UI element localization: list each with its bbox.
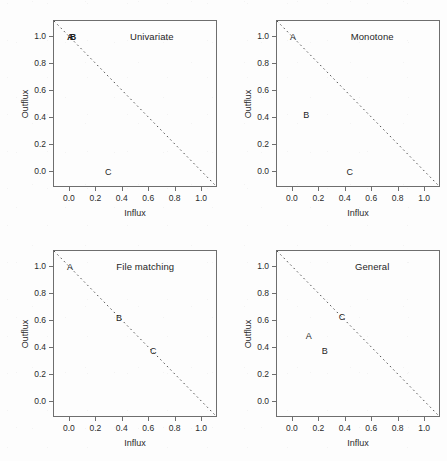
y-tick-label: 0.2 [257, 139, 269, 148]
x-tick [345, 417, 346, 421]
y-tick [272, 266, 276, 267]
y-tick [49, 374, 53, 375]
panel-title: Monotone [351, 31, 394, 42]
y-tick-label: 1.0 [257, 32, 269, 41]
x-axis-label: Influx [347, 438, 369, 448]
influx-outflux-figure: ABCUnivariate0.00.20.40.60.81.00.00.20.4… [0, 0, 447, 461]
x-tick-label: 1.0 [195, 194, 207, 203]
x-tick-label: 0.4 [339, 194, 351, 203]
x-tick-label: 0.0 [63, 194, 75, 203]
plot-area: ABCMonotone [277, 21, 439, 186]
y-tick [272, 36, 276, 37]
x-tick-label: 0.6 [142, 194, 154, 203]
y-tick-label: 0.0 [34, 396, 46, 405]
x-tick-label: 0.2 [312, 194, 324, 203]
y-tick [49, 63, 53, 64]
x-tick [69, 187, 70, 191]
y-tick-label: 0.8 [257, 59, 269, 68]
y-tick-label: 0.0 [34, 166, 46, 175]
x-tick [398, 187, 399, 191]
panel-title: General [355, 261, 390, 272]
x-tick-label: 0.6 [142, 424, 154, 433]
y-tick [272, 63, 276, 64]
y-tick-label: 0.4 [34, 342, 46, 351]
x-tick-label: 0.0 [286, 424, 298, 433]
y-tick-label: 0.2 [34, 369, 46, 378]
reference-line [277, 251, 439, 416]
y-tick-label: 0.4 [257, 112, 269, 121]
y-tick [49, 36, 53, 37]
panel-title: File matching [116, 261, 174, 272]
x-tick-label: 0.8 [392, 194, 404, 203]
y-tick [49, 144, 53, 145]
x-tick-label: 0.8 [392, 424, 404, 433]
y-tick-label: 0.8 [257, 289, 269, 298]
y-axis-label: Outflux [243, 89, 253, 118]
plot-area: ABCFile matching [54, 251, 216, 416]
x-tick [371, 187, 372, 191]
y-tick [272, 90, 276, 91]
y-tick-label: 1.0 [34, 32, 46, 41]
x-tick [345, 187, 346, 191]
panel-univariate: ABCUnivariate0.00.20.40.60.81.00.00.20.4… [0, 0, 223, 230]
x-tick-label: 0.2 [89, 194, 101, 203]
y-tick-label: 0.2 [34, 139, 46, 148]
plot-area: ABCGeneral [277, 251, 439, 416]
x-tick [95, 187, 96, 191]
plot-frame: ABCUnivariate [53, 20, 217, 187]
data-point-label-a: A [290, 33, 296, 42]
data-point-label-b: B [322, 346, 328, 355]
x-tick-label: 0.6 [365, 424, 377, 433]
y-axis-label: Outflux [243, 319, 253, 348]
y-tick-label: 0.2 [257, 369, 269, 378]
y-tick [49, 171, 53, 172]
x-tick [424, 417, 425, 421]
x-tick-label: 1.0 [418, 424, 430, 433]
x-tick [122, 417, 123, 421]
x-tick-label: 0.8 [169, 424, 181, 433]
x-tick [175, 187, 176, 191]
y-tick [272, 401, 276, 402]
x-tick-label: 0.4 [339, 424, 351, 433]
x-tick-label: 0.8 [169, 194, 181, 203]
y-tick [272, 117, 276, 118]
x-tick [201, 417, 202, 421]
x-tick-label: 0.0 [286, 194, 298, 203]
x-tick [175, 417, 176, 421]
x-tick-label: 0.2 [312, 424, 324, 433]
y-tick [49, 293, 53, 294]
panel-general: ABCGeneral0.00.20.40.60.81.00.00.20.40.6… [223, 230, 446, 460]
data-point-label-ab: AB [67, 33, 73, 42]
x-tick [69, 417, 70, 421]
x-tick [148, 187, 149, 191]
y-tick [49, 90, 53, 91]
reference-line [54, 21, 216, 186]
data-point-label-c: C [105, 167, 111, 176]
data-point-label-c: C [347, 167, 353, 176]
x-tick [318, 417, 319, 421]
y-tick-label: 0.8 [34, 289, 46, 298]
y-axis-label: Outflux [20, 319, 30, 348]
data-point-label-a: A [306, 331, 312, 340]
y-tick-label: 0.6 [34, 316, 46, 325]
x-tick-label: 0.6 [365, 194, 377, 203]
y-tick [49, 117, 53, 118]
panel-monotone: ABCMonotone0.00.20.40.60.81.00.00.20.40.… [223, 0, 446, 230]
x-tick [371, 417, 372, 421]
y-tick-label: 0.6 [257, 86, 269, 95]
data-point-label-c: C [339, 312, 345, 321]
y-tick [49, 401, 53, 402]
x-tick [398, 417, 399, 421]
plot-area: ABCUnivariate [54, 21, 216, 186]
x-tick [201, 187, 202, 191]
data-point-label-b: B [303, 111, 309, 120]
x-tick-label: 0.0 [63, 424, 75, 433]
y-tick [272, 144, 276, 145]
y-tick-label: 0.0 [257, 166, 269, 175]
x-tick-label: 1.0 [195, 424, 207, 433]
x-tick [148, 417, 149, 421]
x-tick [424, 187, 425, 191]
x-tick-label: 0.2 [89, 424, 101, 433]
y-tick [272, 347, 276, 348]
x-axis-label: Influx [124, 208, 146, 218]
